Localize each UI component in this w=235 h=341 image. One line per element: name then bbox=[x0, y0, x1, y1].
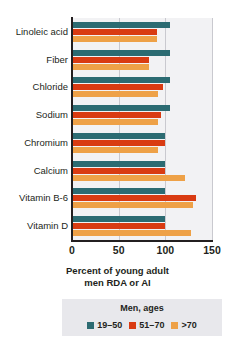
legend-item: >70 bbox=[171, 320, 196, 330]
plot-area bbox=[72, 18, 212, 240]
bar bbox=[72, 91, 158, 97]
bar bbox=[72, 175, 185, 181]
legend-title: Men, ages bbox=[62, 303, 222, 313]
bar bbox=[72, 29, 157, 35]
category-label: Chromium bbox=[0, 137, 68, 148]
legend-label: >70 bbox=[181, 320, 196, 330]
x-tick-label: 150 bbox=[203, 244, 221, 256]
legend-swatch bbox=[87, 322, 94, 329]
x-axis-line bbox=[71, 240, 213, 242]
bar-group bbox=[72, 21, 212, 43]
bar bbox=[72, 223, 165, 229]
x-tick-label: 100 bbox=[157, 244, 175, 256]
bar bbox=[72, 133, 165, 139]
bar bbox=[72, 22, 170, 28]
bar bbox=[72, 112, 161, 118]
bar bbox=[72, 147, 158, 153]
x-axis-title-line-1: Percent of young adult bbox=[14, 265, 221, 277]
bar-group bbox=[72, 132, 212, 154]
y-axis-line bbox=[71, 17, 73, 241]
bar-group bbox=[72, 49, 212, 71]
gridline bbox=[212, 18, 213, 240]
legend-label: 51–70 bbox=[139, 320, 164, 330]
category-label: Calcium bbox=[0, 165, 68, 176]
bar bbox=[72, 202, 193, 208]
legend-label: 19–50 bbox=[97, 320, 122, 330]
category-label: Sodium bbox=[0, 109, 68, 120]
bar bbox=[72, 57, 149, 63]
x-axis-title: Percent of young adult men RDA or AI bbox=[14, 265, 221, 288]
x-tick-label: 0 bbox=[69, 244, 75, 256]
bar bbox=[72, 230, 191, 236]
legend-item: 19–50 bbox=[87, 320, 122, 330]
bar-group bbox=[72, 104, 212, 126]
bar bbox=[72, 36, 157, 42]
bar-group bbox=[72, 187, 212, 209]
legend-items: 19–5051–70>70 bbox=[62, 318, 222, 332]
bar bbox=[72, 195, 196, 201]
legend-swatch bbox=[171, 322, 178, 329]
category-axis-labels: Linoleic acidFiberChlorideSodiumChromium… bbox=[0, 18, 68, 240]
chart-legend: Men, ages 19–5051–70>70 bbox=[62, 299, 222, 336]
bar bbox=[72, 105, 170, 111]
bar bbox=[72, 50, 170, 56]
x-axis-title-line-2: men RDA or AI bbox=[14, 277, 221, 289]
bar bbox=[72, 77, 170, 83]
legend-item: 51–70 bbox=[129, 320, 164, 330]
bar bbox=[72, 161, 165, 167]
bar bbox=[72, 168, 165, 174]
bar bbox=[72, 188, 165, 194]
bar bbox=[72, 64, 149, 70]
category-label: Vitamin D bbox=[0, 220, 68, 231]
x-axis-tick-labels: 050100150 bbox=[0, 244, 235, 258]
category-label: Linoleic acid bbox=[0, 26, 68, 37]
bar bbox=[72, 216, 165, 222]
bar-group bbox=[72, 215, 212, 237]
bar bbox=[72, 119, 158, 125]
legend-swatch bbox=[129, 322, 136, 329]
bar bbox=[72, 140, 165, 146]
bar bbox=[72, 84, 163, 90]
x-tick-label: 50 bbox=[113, 244, 125, 256]
category-label: Vitamin B-6 bbox=[0, 192, 68, 203]
bar-group bbox=[72, 160, 212, 182]
bar-group bbox=[72, 76, 212, 98]
bar-chart-figure: Linoleic acidFiberChlorideSodiumChromium… bbox=[0, 0, 235, 341]
category-label: Fiber bbox=[0, 54, 68, 65]
category-label: Chloride bbox=[0, 81, 68, 92]
